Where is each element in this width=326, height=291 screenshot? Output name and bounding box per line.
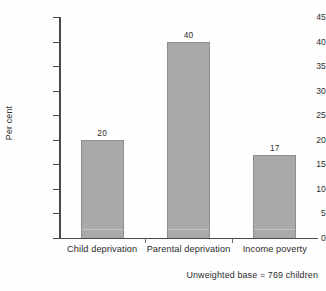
y-tick-mark [53,17,59,18]
footnote-unweighted-base: Unweighted base = 769 children [186,270,318,280]
y-tick-label: 40 [280,37,326,46]
bar [253,155,296,238]
category-label: Income poverty [232,244,318,255]
bar-value-label: 20 [72,129,132,137]
y-tick-label: 25 [280,111,326,120]
bar-chart-figure: Per cent 051015202530354045 20Child depr… [0,0,326,291]
category-label: Child deprivation [59,244,145,255]
bar [81,140,124,238]
y-tick-mark [53,213,59,214]
bar-value-label: 40 [159,31,219,39]
y-tick-label: 35 [280,62,326,71]
x-tick-mark [145,238,146,243]
bar [167,42,210,238]
y-tick-mark [53,164,59,165]
x-tick-mark [232,238,233,243]
y-tick-mark [53,189,59,190]
y-tick-mark [53,140,59,141]
bar-value-label: 17 [245,144,305,152]
y-tick-mark [53,66,59,67]
y-tick-mark [53,91,59,92]
y-tick-mark [53,42,59,43]
y-tick-mark [53,238,59,239]
category-label: Parental deprivation [145,244,231,255]
y-axis-line [59,17,61,239]
y-axis-title: Per cent [4,93,14,153]
y-tick-mark [53,115,59,116]
y-tick-label: 45 [280,13,326,22]
y-tick-label: 30 [280,86,326,95]
